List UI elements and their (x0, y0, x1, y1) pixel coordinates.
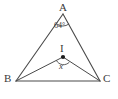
vertex-label-a: A (59, 2, 67, 13)
geometry-figure: A B C I 64° x (0, 0, 118, 99)
angle-label-a: 64° (54, 22, 65, 30)
segment-IB (16, 57, 63, 81)
triangle-diagram-svg (0, 0, 118, 99)
vertex-label-c: C (103, 73, 110, 84)
segment-IC (63, 57, 100, 81)
vertex-label-b: B (4, 73, 11, 84)
angle-label-x: x (59, 62, 63, 70)
vertex-label-i: I (60, 43, 64, 54)
incenter-dot-icon (61, 55, 65, 59)
